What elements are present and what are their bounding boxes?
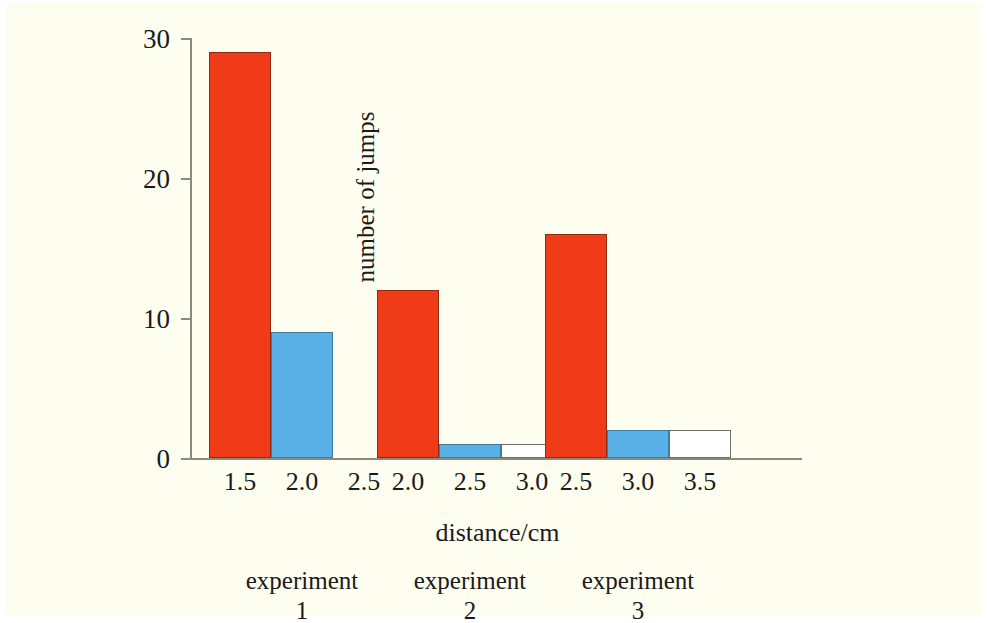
x-tick-label: 2.0 <box>373 469 443 495</box>
bar-g2-2.5 <box>439 444 501 458</box>
y-tick-20: 20 <box>181 178 190 180</box>
x-tick-label: 1.5 <box>205 469 275 495</box>
x-axis-title: distance/cm <box>190 518 805 548</box>
bar-g3-3.0 <box>607 430 669 458</box>
group-caption-line1: experiment <box>414 567 526 594</box>
y-tick-0: 0 <box>181 458 190 460</box>
x-tick-label: 2.0 <box>267 469 337 495</box>
x-tick-label: 2.5 <box>541 469 611 495</box>
bars-layer <box>192 33 805 458</box>
y-tick-30: 30 <box>181 38 190 40</box>
y-tick-label: 30 <box>143 26 170 53</box>
group-caption-line1: experiment <box>582 567 694 594</box>
y-tick-10: 10 <box>181 318 190 320</box>
y-tick-label: 10 <box>143 306 170 333</box>
group-caption-3: experiment3 <box>523 566 753 623</box>
bar-g2-2.0 <box>377 290 439 458</box>
plot-area: 0102030 number of jumps 1.52.02.52.02.53… <box>190 33 805 463</box>
y-tick-label: 0 <box>157 446 171 473</box>
bar-g3-2.5 <box>545 234 607 458</box>
bar-g1-1.5 <box>209 52 271 458</box>
bar-g3-3.5 <box>669 430 731 458</box>
y-tick-label: 20 <box>143 166 170 193</box>
x-tick-label: 3.5 <box>665 469 735 495</box>
x-axis-line <box>190 458 802 460</box>
group-caption-line2: 3 <box>523 596 753 623</box>
x-tick-label: 2.5 <box>435 469 505 495</box>
bar-g1-2.0 <box>271 332 333 458</box>
group-caption-line1: experiment <box>246 567 358 594</box>
x-tick-label: 3.0 <box>603 469 673 495</box>
